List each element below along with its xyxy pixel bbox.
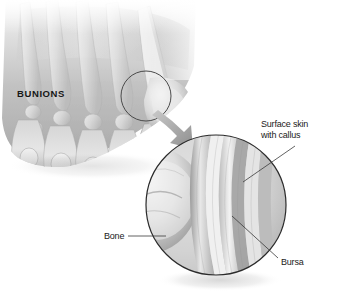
tissue-bands [190,130,278,282]
bone-label: Bone [104,231,124,242]
bunions-illustration: BUNIONS Surface skinwith callus Bone Bur… [0,0,337,303]
foot-shadow [8,152,176,180]
surface-skin-label: Surface skinwith callus [261,119,308,140]
bunions-label: BUNIONS [17,88,65,99]
surface-skin-line-1: Surface skin [261,119,308,129]
magnified-cross-section [124,130,286,282]
bursa-label: Bursa [281,257,304,268]
surface-skin-line-2: with callus [261,130,300,140]
